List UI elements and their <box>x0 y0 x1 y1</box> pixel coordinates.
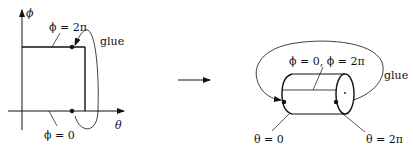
right-end-leader <box>343 114 365 132</box>
phi-axis-label: ϕ <box>26 7 34 20</box>
top-point <box>70 45 74 49</box>
left-end-leader <box>272 114 289 131</box>
seam-label: ϕ = 0, ϕ = 2π <box>289 55 365 68</box>
cylinder-right-end <box>336 74 354 114</box>
bottom-edge-leader <box>49 111 57 126</box>
theta-axis-label: θ <box>115 119 122 132</box>
bottom-point <box>70 109 74 113</box>
top-edge-label: ϕ = 2π <box>49 21 87 34</box>
left-panel: ϕ θ ϕ = 2π ϕ = 0 glue <box>8 7 124 142</box>
bottom-edge-label: ϕ = 0 <box>44 129 75 142</box>
left-end-point <box>282 100 286 104</box>
right-end-point <box>334 100 338 104</box>
glue-label-left: glue <box>100 35 124 48</box>
glue-loop-big <box>256 41 383 103</box>
right-end-center <box>344 92 346 94</box>
glue-loop-arrow <box>75 30 98 129</box>
right-panel: ϕ = 0, ϕ = 2π θ = 0 θ = 2π glue <box>254 41 408 146</box>
cylinder <box>282 74 354 114</box>
left-end-label: θ = 0 <box>254 133 284 146</box>
glue-label-right: glue <box>384 69 408 82</box>
cylinder-left-end <box>282 74 292 114</box>
right-end-label: θ = 2π <box>366 133 403 146</box>
diagram-canvas: ϕ θ ϕ = 2π ϕ = 0 glue <box>0 0 413 153</box>
top-edge-leader <box>52 33 60 47</box>
seam-leader <box>313 67 323 90</box>
